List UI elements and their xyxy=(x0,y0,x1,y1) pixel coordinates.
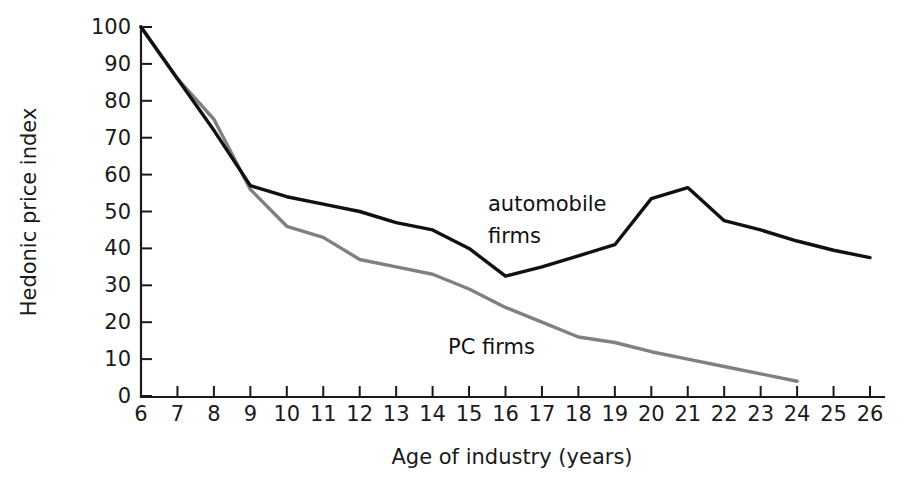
y-tick-label: 0 xyxy=(118,384,131,408)
chart-figure: 0102030405060708090100 67891011121314151… xyxy=(0,0,913,486)
x-tick-label: 13 xyxy=(383,402,410,426)
x-tick-label: 11 xyxy=(310,402,337,426)
series-annotation-pc-firms: PC firms xyxy=(448,335,535,359)
y-tick-label: 70 xyxy=(104,126,131,150)
y-tick-label: 40 xyxy=(104,236,131,260)
x-tick-label: 17 xyxy=(529,402,556,426)
x-axis-ticks xyxy=(141,386,870,397)
y-tick-label: 10 xyxy=(104,347,131,371)
x-axis: 67891011121314151617181920212223242526 xyxy=(134,386,884,426)
hedonic-price-index-line-chart: 0102030405060708090100 67891011121314151… xyxy=(0,0,913,486)
x-tick-label: 23 xyxy=(747,402,774,426)
y-axis-ticks xyxy=(141,27,152,396)
x-tick-label: 19 xyxy=(601,402,628,426)
x-tick-label: 12 xyxy=(346,402,373,426)
x-tick-label: 18 xyxy=(565,402,592,426)
series-annotations: automobilefirmsPC firms xyxy=(448,192,606,359)
x-tick-label: 10 xyxy=(273,402,300,426)
x-tick-label: 8 xyxy=(207,402,220,426)
y-tick-label: 100 xyxy=(91,15,131,39)
x-tick-label: 15 xyxy=(456,402,483,426)
y-tick-label: 60 xyxy=(104,163,131,187)
y-axis-tick-labels: 0102030405060708090100 xyxy=(91,15,131,408)
x-tick-label: 26 xyxy=(857,402,884,426)
x-axis-title: Age of industry (years) xyxy=(391,445,632,469)
y-axis-title: Hedonic price index xyxy=(17,108,41,317)
x-tick-label: 25 xyxy=(820,402,847,426)
y-tick-label: 30 xyxy=(104,273,131,297)
x-tick-label: 6 xyxy=(134,402,147,426)
y-tick-label: 50 xyxy=(104,200,131,224)
x-tick-label: 21 xyxy=(674,402,701,426)
series-line-pc-firms xyxy=(141,27,797,381)
y-tick-label: 20 xyxy=(104,310,131,334)
x-axis-tick-labels: 67891011121314151617181920212223242526 xyxy=(134,402,883,426)
x-tick-label: 7 xyxy=(171,402,184,426)
y-axis: 0102030405060708090100 xyxy=(91,15,152,408)
x-tick-label: 22 xyxy=(711,402,738,426)
y-tick-label: 80 xyxy=(104,89,131,113)
x-tick-label: 20 xyxy=(638,402,665,426)
x-tick-label: 24 xyxy=(784,402,811,426)
series-annotation-automobile-firms: firms xyxy=(488,224,541,248)
y-tick-label: 90 xyxy=(104,52,131,76)
x-tick-label: 14 xyxy=(419,402,446,426)
series-annotation-automobile-firms: automobile xyxy=(488,192,606,216)
x-tick-label: 9 xyxy=(244,402,257,426)
x-tick-label: 16 xyxy=(492,402,519,426)
